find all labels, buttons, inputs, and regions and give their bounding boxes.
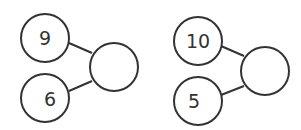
number-bond-2: 10 5 xyxy=(174,17,289,125)
number-bonds-canvas: 9 6 10 5 xyxy=(0,0,301,130)
part-value-top: 9 xyxy=(39,27,51,49)
whole-circle[interactable] xyxy=(241,47,289,95)
connector-line xyxy=(69,43,92,53)
whole-circle[interactable] xyxy=(90,43,138,91)
part-value-top: 10 xyxy=(186,30,210,52)
connector-line xyxy=(69,81,92,91)
number-bond-1: 9 6 xyxy=(21,14,138,122)
part-value-bottom: 5 xyxy=(188,90,200,112)
connector-line xyxy=(221,86,244,95)
connector-line xyxy=(221,46,244,56)
part-value-bottom: 6 xyxy=(44,88,56,110)
